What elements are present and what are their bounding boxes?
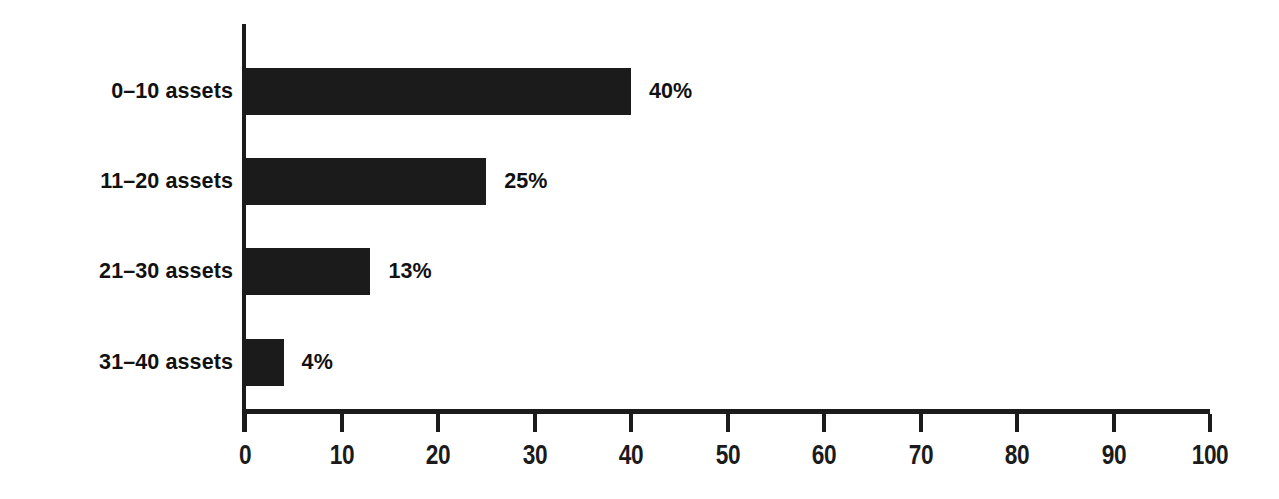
x-axis-tick: [1015, 414, 1019, 432]
x-axis-tick-label: 60: [790, 440, 857, 471]
x-axis-tick: [726, 414, 730, 432]
bar[interactable]: [245, 68, 631, 115]
bar-value-label: 40%: [649, 68, 692, 115]
bar[interactable]: [245, 248, 370, 295]
x-axis-tick: [340, 414, 344, 432]
x-axis-tick: [533, 414, 537, 432]
plot-area: 0102030405060708090100 0–10 assets40%11–…: [0, 0, 1279, 499]
x-axis-tick: [436, 414, 440, 432]
bar[interactable]: [245, 158, 486, 205]
x-axis-tick-label: 10: [308, 440, 375, 471]
x-axis-tick: [629, 414, 633, 432]
bar-row: 0–10 assets40%: [0, 68, 1279, 115]
x-axis-tick-label: 80: [983, 440, 1050, 471]
category-label: 0–10 assets: [111, 68, 233, 115]
bar-row: 31–40 assets4%: [0, 339, 1279, 386]
x-axis-tick: [1112, 414, 1116, 432]
x-axis-tick-label: 0: [211, 440, 278, 471]
bar-value-label: 25%: [504, 158, 547, 205]
category-label: 21–30 assets: [99, 248, 233, 295]
x-axis-tick-label: 20: [404, 440, 471, 471]
bar-chart: 0102030405060708090100 0–10 assets40%11–…: [0, 0, 1279, 499]
x-axis-tick: [919, 414, 923, 432]
bar-row: 21–30 assets13%: [0, 248, 1279, 295]
bar-row: 11–20 assets25%: [0, 158, 1279, 205]
x-axis-tick-label: 90: [1080, 440, 1147, 471]
x-axis-tick: [243, 414, 247, 432]
bar-value-label: 4%: [302, 339, 333, 386]
x-axis-tick-label: 70: [887, 440, 954, 471]
x-axis-tick: [822, 414, 826, 432]
x-axis-tick-label: 40: [597, 440, 664, 471]
x-axis-tick: [1208, 414, 1212, 432]
x-axis-tick-label: 30: [501, 440, 568, 471]
category-label: 11–20 assets: [100, 158, 233, 205]
x-axis-tick-label: 50: [694, 440, 761, 471]
bar[interactable]: [245, 339, 284, 386]
bar-value-label: 13%: [388, 248, 431, 295]
category-label: 31–40 assets: [99, 339, 233, 386]
x-axis-tick-label: 100: [1176, 440, 1243, 471]
